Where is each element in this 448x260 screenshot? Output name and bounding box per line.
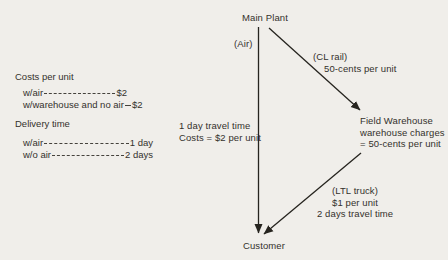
cost-row-warehouse: w/warehouse and no air $2	[23, 99, 127, 111]
truck-mode-label: (LTL truck)	[317, 185, 393, 197]
row-value: $2	[132, 99, 143, 111]
row-label: w/o air	[23, 149, 51, 161]
distribution-diagram: Main Plant Customer Field Warehouse ware…	[0, 0, 448, 260]
truck-time-label: 2 days travel time	[317, 208, 393, 220]
air-time-label: 1 day travel time	[179, 120, 261, 132]
row-label: w/air	[23, 87, 43, 99]
dash-leader	[52, 155, 124, 156]
air-mode-label: (Air)	[234, 38, 252, 49]
costs-rows: w/air $2 w/warehouse and no air $2	[23, 87, 127, 110]
cost-row-air: w/air $2	[23, 87, 127, 99]
info-panel: Costs per unit w/air $2 w/warehouse and …	[15, 71, 165, 160]
dash-leader	[44, 93, 115, 94]
row-value: 2 days	[125, 149, 153, 161]
rail-mode-label: (CL rail)	[313, 51, 396, 63]
delivery-rows: w/air 1 day w/o air 2 days	[23, 137, 153, 160]
air-cost-label: Costs = $2 per unit	[179, 132, 261, 144]
delivery-heading: Delivery time	[15, 118, 165, 129]
node-customer: Customer	[243, 240, 285, 251]
node-field-warehouse: Field Warehouse warehouse charges = 50-c…	[360, 115, 445, 150]
dash-leader	[44, 143, 129, 144]
field-warehouse-charge-value: = 50-cents per unit	[360, 138, 445, 150]
costs-heading: Costs per unit	[15, 71, 165, 82]
truck-cost-label: $1 per unit	[317, 197, 393, 209]
node-main-plant: Main Plant	[242, 12, 288, 23]
row-value: $2	[116, 87, 127, 99]
truck-route-label: (LTL truck) $1 per unit 2 days travel ti…	[317, 185, 393, 220]
delivery-row-air: w/air 1 day	[23, 137, 153, 149]
row-label: w/air	[23, 137, 43, 149]
row-value: 1 day	[130, 137, 153, 149]
delivery-row-noair: w/o air 2 days	[23, 149, 153, 161]
field-warehouse-name: Field Warehouse	[360, 115, 445, 127]
rail-route-label: (CL rail) 50-cents per unit	[313, 51, 396, 74]
field-warehouse-charges-label: warehouse charges	[360, 127, 445, 139]
row-label: w/warehouse and no air	[23, 99, 124, 111]
dash-leader	[125, 105, 131, 106]
rail-cost-label: 50-cents per unit	[324, 63, 396, 75]
air-route-info: 1 day travel time Costs = $2 per unit	[179, 120, 261, 143]
